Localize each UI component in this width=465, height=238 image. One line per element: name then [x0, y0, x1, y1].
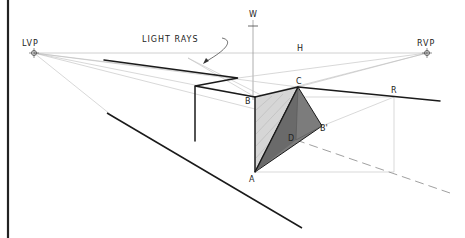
arrow-head-icon [203, 58, 209, 64]
horizon-label: H [297, 44, 304, 53]
light-rays-arrow [205, 38, 228, 62]
vertical-label: W [249, 10, 258, 19]
point-b-label: B [245, 97, 251, 106]
rvp-label: RVP [417, 39, 435, 48]
point-a-label: A [249, 175, 255, 184]
point-r-label: R [391, 86, 397, 95]
shadow-dashed-line [296, 140, 450, 193]
perspective-diagram: LVP RVP H W LIGHT RAYS A B C D B' R [0, 0, 465, 238]
rvp-marker [422, 48, 432, 58]
point-d-label: D [288, 134, 294, 143]
light-rays-label: LIGHT RAYS [142, 35, 199, 44]
point-b-prime-label: B' [320, 124, 328, 133]
point-c-label: C [296, 77, 302, 86]
lvp-label: LVP [22, 39, 39, 48]
lvp-marker [29, 48, 39, 58]
